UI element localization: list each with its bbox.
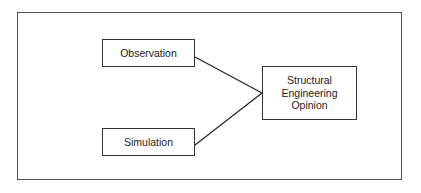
node-label: Observation [120,47,177,60]
connector-lines [0,0,421,193]
node-observation: Observation [102,39,195,67]
node-structural-engineering-opinion: Structural Engineering Opinion [262,66,357,120]
edge-observation-to-opinion [195,57,262,93]
node-label-line: Structural [281,74,337,87]
node-label-line: Engineering [281,87,337,100]
edge-simulation-to-opinion [195,93,262,145]
node-simulation: Simulation [102,128,195,156]
node-label: Simulation [124,136,173,149]
node-label-line: Opinion [281,99,337,112]
